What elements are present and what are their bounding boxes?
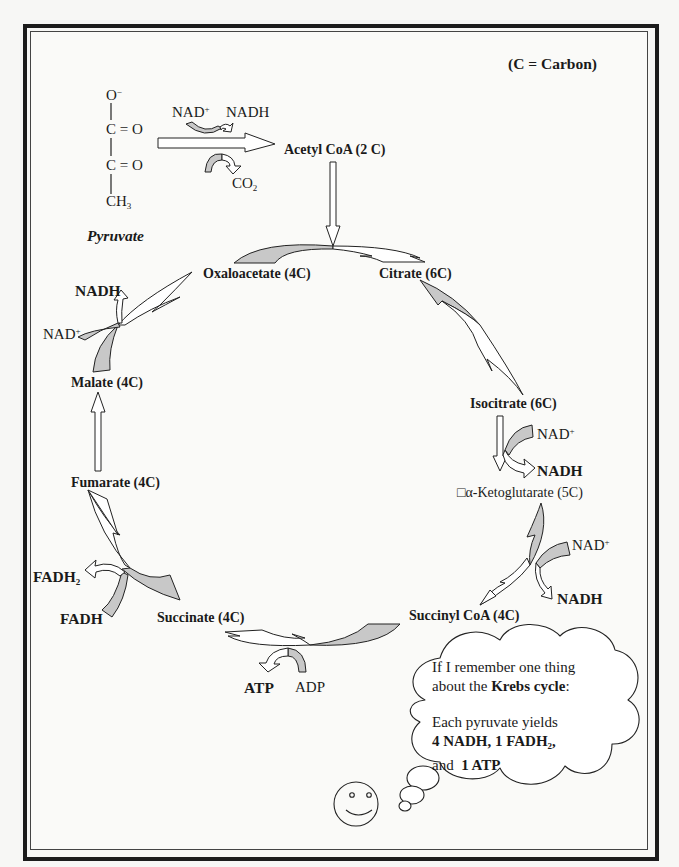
thought-line-1: If I remember one thing <box>432 658 575 677</box>
akg-nadh: NADH <box>557 591 603 607</box>
isocitrate-nad-plus: NAD+ <box>537 427 575 442</box>
nad-curl-link <box>186 122 222 133</box>
thought-line-5: and 1 ATP <box>432 756 575 775</box>
succinate-to-fumarate-arrow <box>122 568 180 600</box>
co2-curl <box>205 154 222 172</box>
citrate-label: Citrate (6C) <box>379 267 452 281</box>
fadh-curl <box>102 572 128 617</box>
fumarate-up-arrow <box>91 392 105 471</box>
nad-curl-akg <box>536 542 570 568</box>
smiley-face-icon <box>334 782 378 826</box>
succinyl-coa-label: Succinyl CoA (4C) <box>409 609 519 623</box>
pyruvate-carbonyl-1: C = O <box>106 122 143 137</box>
alpha-ketoglutarate-label: □α-Ketoglutarate (5C) <box>457 486 583 500</box>
succinylcoa-to-succinate-arrow <box>310 624 400 645</box>
pyruvate-carbonyl-2: C = O <box>106 158 143 173</box>
link-co2: CO2 <box>232 176 257 193</box>
link-nadh: NADH <box>226 105 269 120</box>
thought-line-2: about the Krebs cycle: <box>432 677 575 696</box>
fumarate-label: Fumarate (4C) <box>71 476 160 490</box>
pyruvate-label: Pyruvate <box>87 228 144 244</box>
succinyl-adp: ADP <box>295 680 325 695</box>
oxaloacetate-label: Oxaloacetate (4C) <box>203 267 311 281</box>
link-nad-plus: NAD+ <box>172 105 210 120</box>
malate-label: Malate (4C) <box>71 376 143 390</box>
thought-line-4: 4 NADH, 1 FADH2, <box>432 732 575 756</box>
isocitrate-down-arrow <box>493 416 507 471</box>
akg-nad-plus: NAD+ <box>572 538 610 553</box>
thought-line-3: Each pyruvate yields <box>432 713 575 732</box>
succinate-fadh: FADH <box>60 611 103 627</box>
succinyl-atp: ATP <box>244 680 274 696</box>
adp-atp-curl <box>288 648 306 672</box>
nad-curl-isocitrate <box>505 425 533 455</box>
thought-bubble-text: If I remember one thing about the Krebs … <box>432 658 575 775</box>
isocitrate-label: Isocitrate (6C) <box>470 397 557 411</box>
pyruvate-methyl: CH3 <box>106 194 131 211</box>
pyruvate-oxygen-minus: O− <box>106 88 122 103</box>
oxaloacetate-to-citrate-arrow <box>234 245 333 263</box>
acetyl-coa-label: Acetyl CoA (2 C) <box>284 143 385 157</box>
succinate-label: Succinate (4C) <box>157 611 245 625</box>
malate-nadh: NADH <box>75 283 121 299</box>
krebs-cycle-arrows <box>0 0 679 867</box>
pyruvate-to-acetylcoa-arrow <box>158 133 275 152</box>
acetylcoa-down-arrow <box>326 162 340 246</box>
succinate-fadh2: FADH2 <box>33 569 80 587</box>
carbon-legend: (C = Carbon) <box>508 56 597 72</box>
isocitrate-nadh: NADH <box>537 463 583 479</box>
malate-nad-plus: NAD+ <box>43 327 81 342</box>
